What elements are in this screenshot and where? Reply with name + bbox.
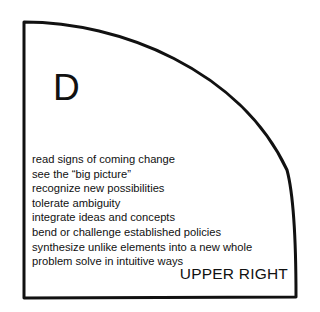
list-item: recognize new possibilities <box>32 181 252 196</box>
quadrant-letter: D <box>53 68 80 108</box>
list-item: read signs of coming change <box>32 152 252 167</box>
list-item: synthesize unlike elements into a new wh… <box>32 240 252 255</box>
list-item: see the “big picture” <box>32 167 252 182</box>
list-item: tolerate ambiguity <box>32 196 252 211</box>
list-item: bend or challenge established policies <box>32 225 252 240</box>
trait-list: read signs of coming change see the “big… <box>32 152 252 269</box>
list-item: integrate ideas and concepts <box>32 210 252 225</box>
quadrant-position-label: UPPER RIGHT <box>180 265 288 283</box>
